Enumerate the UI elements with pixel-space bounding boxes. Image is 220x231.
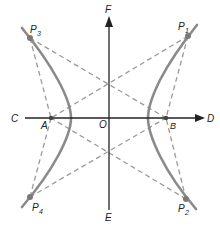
label-p4: P 4	[32, 202, 43, 215]
label-p3-sub: 3	[37, 30, 41, 37]
label-p4-main: P	[32, 202, 39, 213]
label-f: F	[105, 4, 112, 15]
dashed-line-p1-a	[51, 36, 188, 118]
dashed-line-p4-b	[30, 118, 166, 197]
label-p3-main: P	[30, 24, 37, 35]
point-b-marker	[164, 116, 168, 120]
label-p2-sub: 2	[184, 209, 189, 216]
arrowhead-f-icon	[105, 16, 113, 27]
point-p3-marker	[27, 35, 33, 41]
label-o: O	[99, 119, 107, 130]
label-b: B	[170, 121, 176, 131]
label-p2-main: P	[178, 203, 185, 214]
dashed-line-p2-a	[51, 118, 186, 199]
point-p2-marker	[183, 196, 189, 202]
label-p1: P 1	[178, 21, 189, 34]
hyperbola-diagram: F E C D O A B P 1 P 2 P 3 P 4	[0, 0, 220, 231]
label-c: C	[11, 113, 19, 124]
point-a-marker	[49, 116, 53, 120]
point-p4-marker	[27, 194, 33, 200]
label-p3: P 3	[30, 24, 41, 37]
arrowhead-d-icon	[195, 114, 205, 122]
label-p2: P 2	[178, 203, 189, 216]
dashed-line-p1-b	[166, 36, 188, 118]
label-d: D	[207, 113, 214, 124]
label-p1-main: P	[178, 21, 185, 32]
label-p1-sub: 1	[185, 27, 189, 34]
label-p4-sub: 4	[39, 208, 43, 215]
label-e: E	[105, 212, 112, 223]
dashed-line-p3-b	[30, 38, 166, 118]
hyperbola-right-branch	[148, 25, 197, 209]
label-a: A	[40, 120, 48, 131]
